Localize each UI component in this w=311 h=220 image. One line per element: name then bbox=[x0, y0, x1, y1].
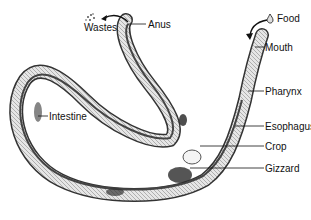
worm-body bbox=[16, 20, 262, 195]
label-food: Food bbox=[277, 13, 300, 24]
label-wastes: Wastes bbox=[84, 22, 117, 33]
label-gizzard: Gizzard bbox=[265, 163, 299, 174]
food-drop-icon bbox=[267, 14, 273, 23]
earthworm-diagram: Wastes Anus Food Mouth Pharynx Esophagus… bbox=[0, 0, 311, 220]
label-mouth: Mouth bbox=[265, 42, 293, 53]
label-intestine: Intestine bbox=[49, 111, 87, 122]
label-esophagus: Esophagus bbox=[265, 121, 311, 132]
gizzard-shape bbox=[168, 167, 192, 183]
wastes-icon bbox=[85, 13, 95, 21]
label-anus: Anus bbox=[148, 19, 171, 30]
earthworm-illustration bbox=[0, 0, 311, 220]
label-crop: Crop bbox=[265, 141, 287, 152]
intestine-tract bbox=[20, 24, 242, 190]
crop-shape bbox=[183, 150, 201, 164]
label-pharynx: Pharynx bbox=[265, 86, 302, 97]
